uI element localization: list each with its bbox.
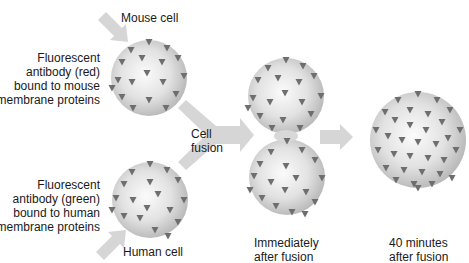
arrow-to-40min [320,124,353,150]
mouse-antibody-line-2: antibody (red) [0,65,100,79]
human-cell-sphere [109,161,189,240]
human-antibody-line-4: membrane proteins [0,220,100,234]
cell-fusion-line-1: Cell [191,127,223,141]
arrow-into-human-cell [96,230,126,260]
cell-fusion-label: Cell fusion [191,127,223,155]
immediately-after-fusion-label: Immediately after fusion [254,236,319,263]
mouse-antibody-line-3: bound to mouse [0,79,100,93]
mouse-antibody-label: Fluorescent antibody (red) bound to mous… [0,51,100,107]
cell-fusion-diagram: Mouse cell Fluorescent antibody (red) bo… [0,0,469,263]
human-antibody-line-3: bound to human [0,206,100,220]
human-antibody-line-2: antibody (green) [0,192,100,206]
mouse-cell-label: Mouse cell [121,11,178,25]
fused-cell-immediately [245,57,326,218]
forty-minutes-after-fusion-label: 40 minutes after fusion [389,236,448,263]
forty-minutes-line-1: 40 minutes [389,236,448,250]
forty-minutes-line-2: after fusion [389,250,448,263]
mouse-antibody-line-4: membrane proteins [0,93,100,107]
human-cell-label: Human cell [123,245,183,259]
mouse-antibody-line-1: Fluorescent [0,51,100,65]
immediately-line-2: after fusion [254,250,319,263]
immediately-line-1: Immediately [254,236,319,250]
mouse-cell-sphere [109,39,188,116]
fused-cell-40-minutes [370,91,466,192]
human-antibody-line-1: Fluorescent [0,178,100,192]
cell-fusion-line-2: fusion [191,141,223,155]
human-antibody-label: Fluorescent antibody (green) bound to hu… [0,178,100,234]
